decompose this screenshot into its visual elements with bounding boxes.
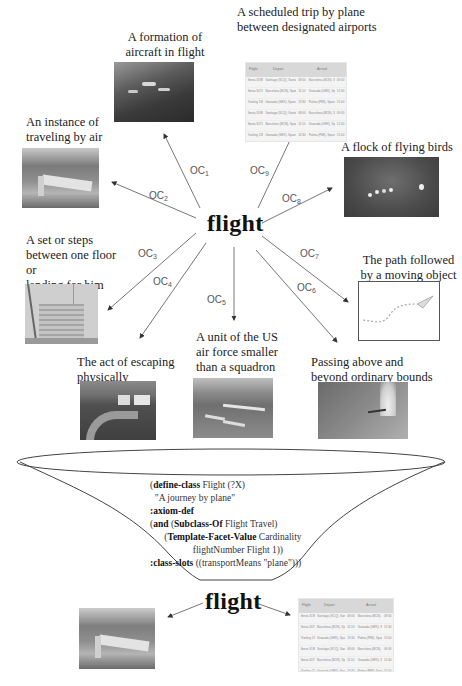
caption-oc9: A scheduled trip by plane between design…: [237, 5, 462, 35]
oc7-label: OC7: [300, 248, 319, 260]
th: Depart: [321, 599, 363, 613]
th: Arrival: [363, 599, 379, 613]
caption-line: between designated airports: [237, 20, 462, 35]
caption-line: A flock of flying birds: [341, 140, 462, 155]
oc-subscript: 6: [312, 287, 316, 294]
th: Flight: [299, 599, 321, 613]
caption-oc8: A flock of flying birds: [341, 140, 462, 155]
caption-line: The path followed: [355, 253, 462, 268]
table-row: Vueling 1588Granada (GRX), Spain13:30Pal…: [299, 668, 393, 672]
table-row: Iberia 3071Barcelona (BCN), Spain11:10Gr…: [299, 657, 393, 668]
oc-text: OC: [207, 294, 222, 305]
oc8-label: OC8: [282, 193, 301, 205]
bottom-word-flight: flight: [205, 588, 261, 615]
oc-text: OC: [300, 248, 315, 259]
paper-plane-icon: [359, 282, 439, 340]
center-word-flight: flight: [207, 210, 263, 237]
oc-text: OC: [250, 165, 265, 176]
table-header: Flight Depart Arrival: [246, 63, 346, 77]
paper-plane-path-image: [358, 281, 440, 341]
flock-of-birds-image: [344, 157, 439, 217]
table-row: Iberia 3071Barcelona (BCN), Spain11:10Gr…: [246, 121, 346, 132]
staircase-image: [25, 284, 98, 344]
oc5-label: OC5: [207, 294, 226, 306]
table-row: Vueling 1588Granada (GRX), Spain13:30Pal…: [299, 635, 393, 646]
th: Flight: [246, 63, 270, 77]
oc-subscript: 2: [164, 195, 168, 202]
oc-text: OC: [297, 282, 312, 293]
table-row: Iberia 3071Barcelona (BCN), Spain11:10Gr…: [246, 88, 346, 99]
supersonic-jet-image: [318, 382, 408, 439]
oc-subscript: 3: [153, 253, 157, 260]
caption-line: The act of escaping: [77, 355, 187, 370]
caption-line: A scheduled trip by plane: [237, 5, 462, 20]
oc-text: OC: [149, 190, 164, 201]
caption-line: aircraft in flight: [110, 45, 220, 60]
oc3-label: OC3: [138, 248, 157, 260]
oc-subscript: 5: [222, 299, 226, 306]
oc4-label: OC4: [153, 276, 172, 288]
table-header: Flight Depart Arrival: [299, 599, 393, 613]
table-row: Iberia 3198Santiago (SCQ), Santiago, Spa…: [246, 77, 346, 88]
caption-line: between one floor or: [26, 248, 126, 278]
th: Arrival: [314, 63, 330, 77]
ontology-definition: (define-class Flight (?X) "A journey by …: [150, 479, 302, 570]
bottom-small-plane-image: [79, 608, 155, 669]
caption-oc6: Passing above and beyond ordinary bounds: [311, 355, 462, 385]
small-plane-image: [22, 148, 99, 208]
caption-line: A unit of the US: [196, 330, 286, 345]
arrow-oc6: [256, 250, 337, 342]
code-line: (define-class Flight (?X): [150, 479, 302, 492]
caption-oc2: An instance of traveling by air: [26, 115, 136, 145]
caption-line: traveling by air: [26, 130, 136, 145]
oc-text: OC: [190, 165, 205, 176]
oc2-label: OC2: [149, 190, 168, 202]
caption-oc7: The path followed by a moving object: [355, 253, 462, 283]
oc-subscript: 7: [315, 253, 319, 260]
flight-schedule-table-bottom: Flight Depart Arrival Iberia 3198Santiag…: [298, 598, 394, 672]
oc-subscript: 9: [265, 170, 269, 177]
code-line: "A journey by plane": [150, 492, 302, 505]
escape-road-image: [80, 381, 156, 440]
caption-line: A set or steps: [26, 233, 126, 248]
th: Depart: [270, 63, 314, 77]
code-line: flightNumber Flight 1)): [150, 544, 302, 557]
code-line: :class-slots ((transportMeans "plane"))): [150, 557, 302, 570]
oc-text: OC: [282, 193, 297, 204]
caption-oc5: A unit of the US air force smaller than …: [196, 330, 286, 375]
caption-line: air force smaller: [196, 345, 286, 360]
arrow-bottom-left: [168, 603, 203, 617]
oc6-label: OC6: [297, 282, 316, 294]
caption-line: Passing above and: [311, 355, 462, 370]
table-row: Iberia 3198Santiago (SCQ), Santiago, Spa…: [299, 613, 393, 624]
code-line: (Template-Facet-Value Cardinality: [150, 531, 302, 544]
code-line: (and (Subclass-Of Flight Travel): [150, 518, 302, 531]
oc9-label: OC9: [250, 165, 269, 177]
oc-subscript: 1: [205, 170, 209, 177]
table-row: Iberia 3198Santiago (SCQ), Santiago, Spa…: [299, 646, 393, 657]
table-row: Vueling 1588Granada (GRX), Spain13:30Pal…: [246, 132, 346, 142]
oc1-label: OC1: [190, 165, 209, 177]
table-row: Iberia 3071Barcelona (BCN), Spain11:10Gr…: [299, 624, 393, 635]
caption-line: An instance of: [26, 115, 136, 130]
oc-text: OC: [138, 248, 153, 259]
planes-over-water-image: [193, 378, 273, 438]
code-line: :axiom-def: [150, 505, 302, 518]
oc-subscript: 8: [297, 198, 301, 205]
aircraft-formation-image: [114, 62, 194, 122]
caption-oc1: A formation of aircraft in flight: [110, 30, 220, 60]
oc-text: OC: [153, 276, 168, 287]
table-row: Vueling 1588Granada (GRX), Spain13:30Pal…: [246, 99, 346, 110]
table-row: Iberia 3198Santiago (SCQ), Santiago, Spa…: [246, 110, 346, 121]
oc-subscript: 4: [168, 281, 172, 288]
caption-line: A formation of: [110, 30, 220, 45]
flight-schedule-table-top: Flight Depart Arrival Iberia 3198Santiag…: [245, 62, 347, 142]
caption-line: than a squadron: [196, 360, 286, 375]
